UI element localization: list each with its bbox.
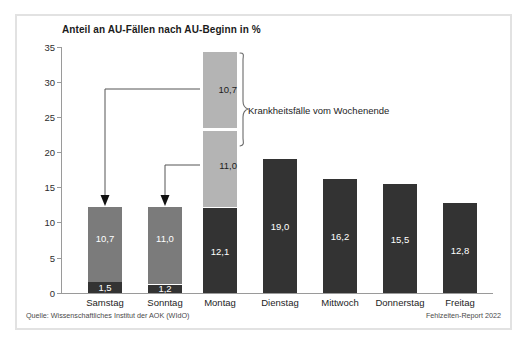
bar-value-mittwoch: 16,2 (323, 231, 357, 242)
weekend-annotation-label: Krankheitsfälle vom Wochenende (248, 105, 389, 116)
x-label-donnerstag: Donnerstag (366, 297, 434, 308)
y-tick-label-35: 35 (33, 42, 55, 53)
bar-value-freitag: 12,8 (443, 245, 477, 256)
x-label-dienstag: Dienstag (250, 297, 310, 308)
y-tick-label-20: 20 (33, 147, 55, 158)
bar-value-sonntag-weekend: 11,0 (148, 233, 182, 244)
bar-value-montag-day: 12,1 (203, 246, 237, 257)
y-tick-mark-15 (57, 187, 61, 188)
bar-value-donnerstag: 15,5 (383, 234, 417, 245)
x-label-freitag: Freitag (430, 297, 490, 308)
x-label-mittwoch: Mittwoch (310, 297, 370, 308)
bar-samstag-segment-weekend[interactable] (88, 207, 122, 282)
chart-title: Anteil an AU-Fällen nach AU-Beginn in % (62, 24, 261, 35)
y-tick-mark-30 (57, 82, 61, 83)
source-note: Quelle: Wissenschaftliches Institut der … (26, 311, 189, 320)
bar-sonntag-segment-weekend[interactable] (148, 207, 182, 284)
x-axis-line (61, 293, 493, 294)
report-note: Fehlzeiten-Report 2022 (426, 311, 501, 320)
y-tick-label-0: 0 (33, 288, 55, 299)
bar-value-montag-sunday-cases: 11,0 (203, 160, 237, 171)
chart-figure: Anteil an AU-Fällen nach AU-Beginn in % … (0, 0, 527, 345)
bar-value-sonntag-day: 1,2 (148, 283, 182, 294)
y-tick-mark-35 (57, 47, 61, 48)
y-tick-mark-25 (57, 117, 61, 118)
x-label-montag: Montag (190, 297, 250, 308)
bar-value-dienstag: 19,0 (263, 221, 297, 232)
y-tick-mark-20 (57, 152, 61, 153)
y-tick-label-10: 10 (33, 217, 55, 228)
y-axis-line (61, 47, 62, 293)
y-tick-label-30: 30 (33, 77, 55, 88)
y-tick-mark-5 (57, 258, 61, 259)
y-tick-label-5: 5 (33, 253, 55, 264)
x-label-sonntag: Sonntag (135, 297, 195, 308)
y-tick-label-25: 25 (33, 112, 55, 123)
bar-value-samstag-day: 1,5 (88, 282, 122, 293)
y-tick-mark-0 (57, 293, 61, 294)
x-label-samstag: Samstag (75, 297, 135, 308)
bar-value-samstag-weekend: 10,7 (88, 233, 122, 244)
y-tick-mark-10 (57, 222, 61, 223)
y-tick-label-15: 15 (33, 182, 55, 193)
bar-value-montag-saturday-cases: 10,7 (203, 84, 237, 95)
